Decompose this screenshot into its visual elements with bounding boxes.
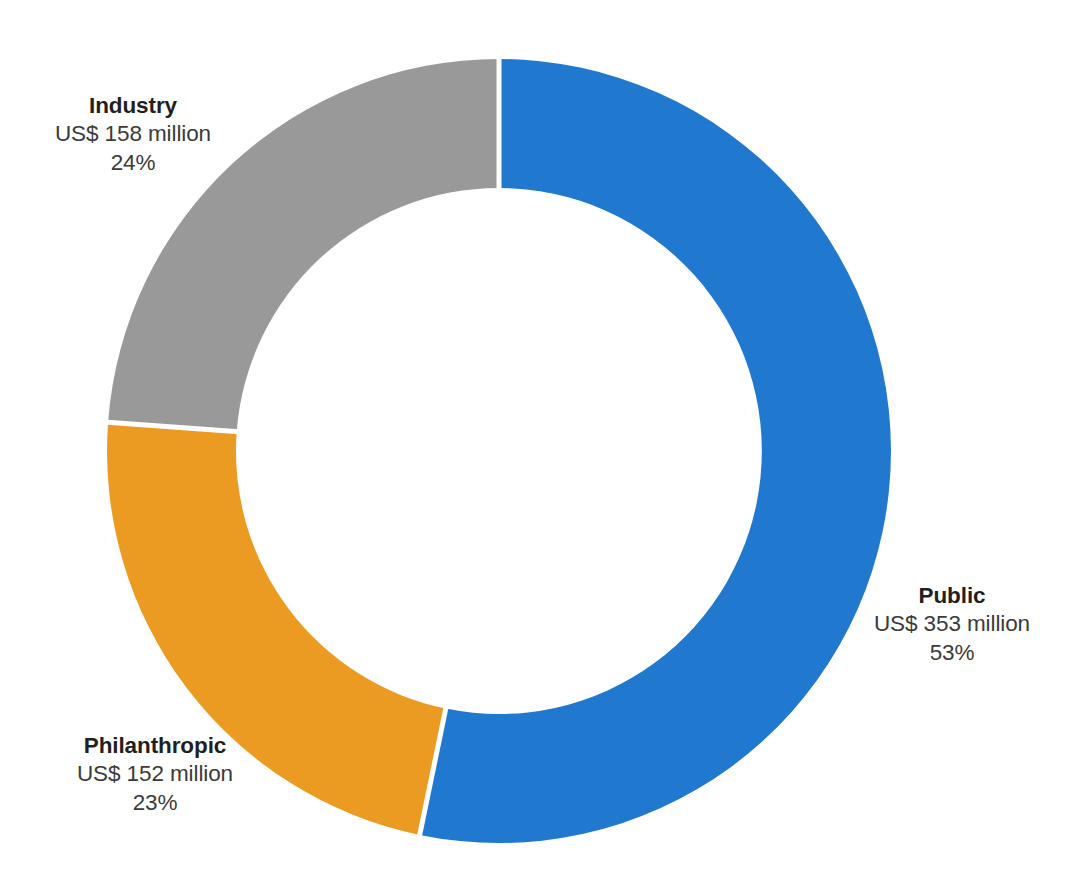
callout-public-title: Public <box>874 582 1030 610</box>
callout-public-percent: 53% <box>874 639 1030 667</box>
callout-philanthropic-percent: 23% <box>77 789 233 817</box>
callout-industry: Industry US$ 158 million 24% <box>55 92 211 177</box>
callout-philanthropic: Philanthropic US$ 152 million 23% <box>77 732 233 817</box>
donut-chart: Industry US$ 158 million 24% Public US$ … <box>0 0 1081 895</box>
callout-industry-percent: 24% <box>55 149 211 177</box>
callout-public-value: US$ 353 million <box>874 610 1030 638</box>
callout-philanthropic-value: US$ 152 million <box>77 760 233 788</box>
callout-public: Public US$ 353 million 53% <box>874 582 1030 667</box>
callout-industry-value: US$ 158 million <box>55 120 211 148</box>
callout-industry-title: Industry <box>55 92 211 120</box>
callout-philanthropic-title: Philanthropic <box>77 732 233 760</box>
donut-hole <box>344 296 654 606</box>
